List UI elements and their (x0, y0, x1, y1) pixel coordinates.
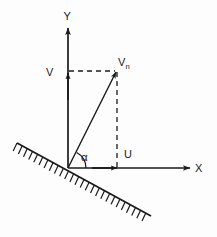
vn-resultant-vector (68, 72, 116, 168)
v-component-label: V (46, 66, 54, 78)
vn-resultant-label: V n (118, 56, 130, 71)
vn-label-subscript: n (126, 62, 130, 71)
x-axis-label: X (195, 162, 203, 174)
vector-diagram-svg: Y X V U α V n (0, 0, 217, 237)
alpha-angle-label: α (81, 151, 88, 163)
y-axis-label: Y (64, 10, 72, 22)
vector-diagram-figure: Y X V U α V n (0, 0, 217, 237)
u-component-label: U (124, 148, 132, 160)
